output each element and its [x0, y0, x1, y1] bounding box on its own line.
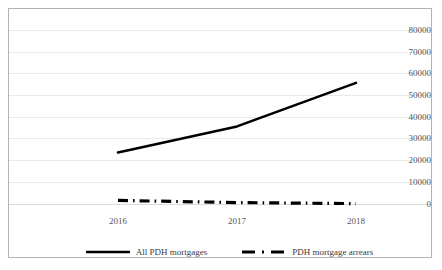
legend-entry-pdh-mortgage-arrears: PDH mortgage arrears — [241, 247, 373, 257]
chart-frame: 80000 70000 60000 50000 40000 30000 2000… — [8, 8, 432, 258]
legend-label-all-pdh-mortgages: All PDH mortgages — [136, 247, 208, 257]
legend-label-pdh-mortgage-arrears: PDH mortgage arrears — [292, 247, 373, 257]
y-tick-label-80000: 80000 — [375, 25, 431, 35]
chart-legend: All PDH mortgages PDH mortgage arrears — [17, 241, 441, 263]
gridline-80000 — [9, 30, 431, 31]
series-line-pdh-mortgage-arrears — [118, 200, 356, 203]
chart-figure: 80000 70000 60000 50000 40000 30000 2000… — [0, 0, 442, 270]
x-tick-label-2017: 2017 — [207, 216, 267, 227]
legend-entry-all-pdh-mortgages: All PDH mortgages — [85, 247, 208, 257]
x-tick-label-2016: 2016 — [88, 216, 148, 227]
series-line-all-pdh-mortgages — [118, 83, 356, 153]
x-tick-label-2018: 2018 — [326, 216, 386, 227]
solid-line-swatch-icon — [85, 248, 131, 256]
dash-dot-line-swatch-icon — [241, 248, 287, 256]
series-plot — [77, 38, 399, 212]
